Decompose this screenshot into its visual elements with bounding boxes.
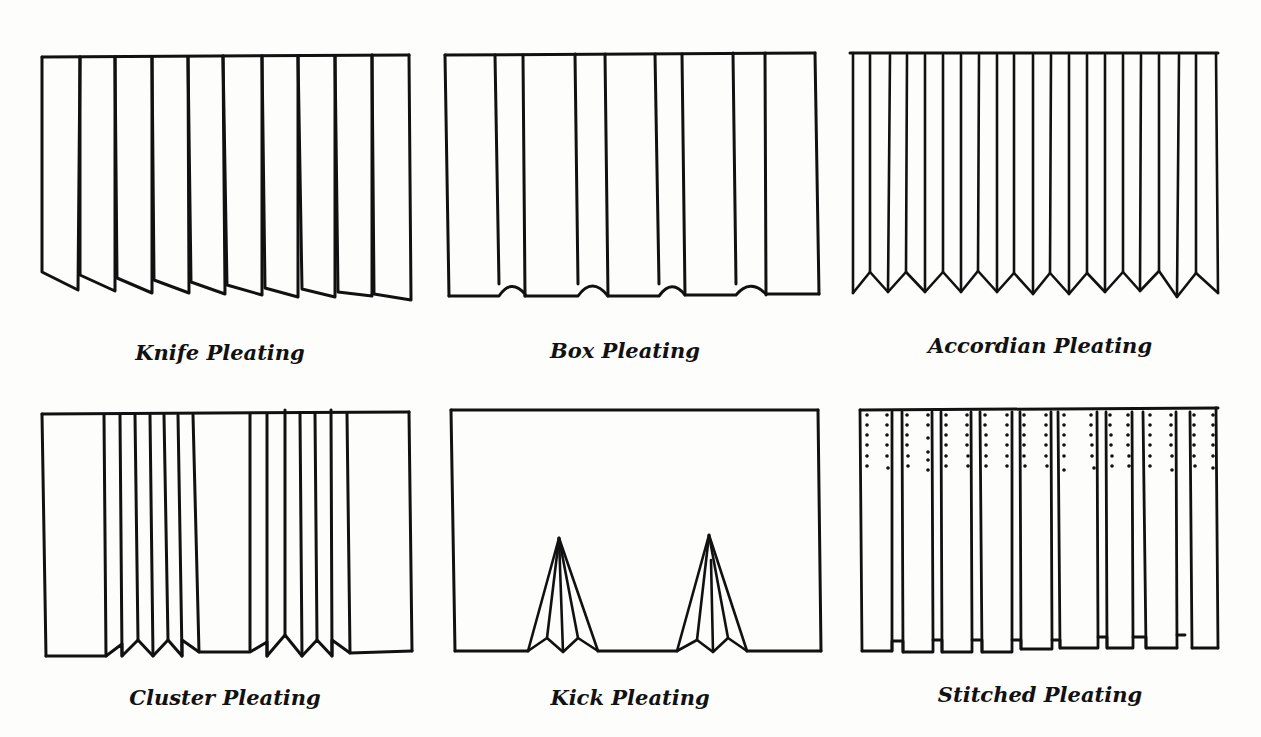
kick-pleating-diagram [435,400,835,680]
panel-stitched-pleating: Stitched Pleating [840,400,1261,737]
panel-accordian-pleating: Accordian Pleating [840,0,1261,380]
caption-accordian-pleating: Accordian Pleating [890,333,1190,358]
kick-pleat-left [528,538,598,652]
panel-box-pleating: Box Pleating [435,0,835,380]
caption-knife-pleating: Knife Pleating [120,340,320,365]
caption-kick-pleating: Kick Pleating [530,685,730,710]
caption-box-pleating: Box Pleating [525,338,725,363]
cluster-pleating-diagram [0,400,430,680]
caption-cluster-pleating: Cluster Pleating [110,685,340,710]
kick-pleat-right [677,535,747,652]
caption-stitched-pleating: Stitched Pleating [915,682,1165,707]
box-pleating-diagram [435,0,835,330]
stitch-dots [865,413,1215,472]
panel-knife-pleating: Knife Pleating [0,0,430,380]
panel-kick-pleating: Kick Pleating [435,400,835,737]
accordian-pleating-diagram [840,0,1261,330]
panel-cluster-pleating: Cluster Pleating [0,400,430,737]
stitched-pleating-diagram [840,400,1261,680]
knife-pleating-diagram [0,0,430,330]
